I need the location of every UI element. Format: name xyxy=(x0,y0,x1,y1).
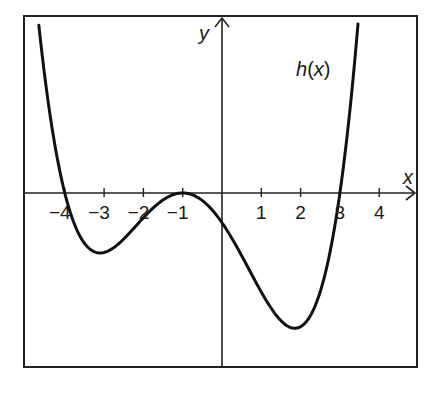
x-tick-label: −3 xyxy=(88,202,110,223)
function-label-arg: (x) xyxy=(307,58,330,80)
function-label: h(x) xyxy=(296,58,330,80)
chart: −4−3−2−11234 x y h(x) xyxy=(0,0,436,395)
x-tick-label: 1 xyxy=(256,202,267,223)
x-tick-label: 4 xyxy=(374,202,385,223)
y-axis-label: y xyxy=(197,22,210,44)
plot-frame xyxy=(24,16,417,367)
x-axis-label: x xyxy=(402,166,414,188)
x-tick-label: 2 xyxy=(295,202,306,223)
function-label-name: h xyxy=(296,58,307,80)
x-tick-label: −1 xyxy=(167,202,189,223)
x-tick-label: −2 xyxy=(128,202,150,223)
